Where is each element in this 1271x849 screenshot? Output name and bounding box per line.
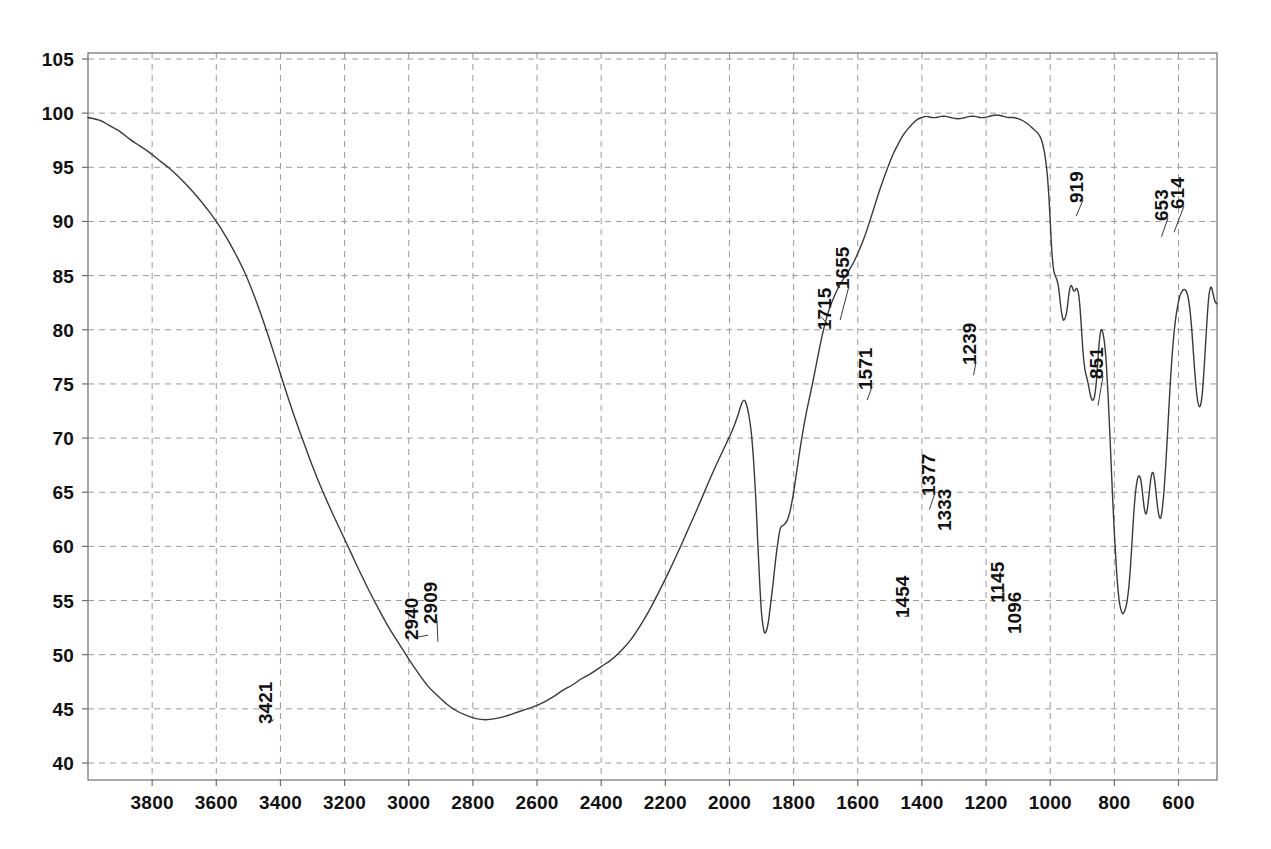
peak-label: 614 (1167, 177, 1188, 209)
y-tick-label: 85 (52, 266, 74, 287)
y-tick-label: 55 (52, 591, 74, 612)
x-tick-label: 2000 (708, 792, 751, 813)
peak-label: 1454 (892, 575, 913, 618)
peak-label: 851 (1086, 347, 1107, 379)
x-tick-label: 800 (1098, 792, 1130, 813)
y-tick-label: 70 (52, 428, 74, 449)
x-tick-label: 2200 (644, 792, 687, 813)
y-tick-label: 100 (42, 103, 74, 124)
x-tick-label: 3200 (323, 792, 366, 813)
peak-annotation-labels: 3421294029091715165515711454137713331239… (255, 171, 1188, 724)
x-tick-label: 3800 (131, 792, 174, 813)
x-tick-label: 1800 (772, 792, 815, 813)
peak-label: 1715 (814, 287, 835, 330)
y-tick-label: 45 (52, 699, 74, 720)
peak-label: 919 (1066, 171, 1087, 203)
x-tick-label: 2800 (451, 792, 494, 813)
ftir-spectrum-figure: 3800360034003200300028002600240022002000… (0, 0, 1271, 849)
x-tick-label: 2600 (515, 792, 558, 813)
x-tick-label: 600 (1162, 792, 1194, 813)
peak-label: 2909 (420, 582, 441, 624)
peak-label: 1655 (832, 246, 853, 289)
x-axis-tick-labels: 3800360034003200300028002600240022002000… (131, 792, 1195, 813)
y-tick-label: 90 (52, 211, 74, 232)
axis-tick-marks (82, 59, 1179, 786)
peak-leader-line (840, 286, 849, 320)
x-tick-label: 2400 (580, 792, 623, 813)
peak-label: 2940 (401, 598, 422, 640)
y-tick-label: 75 (52, 374, 74, 395)
y-tick-label: 50 (52, 645, 74, 666)
x-tick-label: 1600 (836, 792, 879, 813)
y-tick-label: 60 (52, 536, 74, 557)
grid-lines (88, 53, 1217, 780)
peak-label: 3421 (255, 681, 276, 724)
peak-leader-line (1098, 376, 1103, 406)
x-tick-label: 3600 (195, 792, 238, 813)
x-tick-label: 1000 (1029, 792, 1072, 813)
peak-label: 1571 (855, 347, 876, 390)
x-tick-label: 3400 (259, 792, 302, 813)
axes-border (88, 53, 1217, 780)
x-tick-label: 1200 (965, 792, 1008, 813)
plot-frame (88, 53, 1217, 780)
spectrum-svg: 3800360034003200300028002600240022002000… (0, 0, 1271, 849)
peak-label: 1239 (959, 323, 980, 365)
y-tick-label: 40 (52, 753, 74, 774)
y-tick-label: 65 (52, 482, 74, 503)
y-tick-label: 105 (42, 49, 75, 70)
y-tick-label: 95 (52, 157, 74, 178)
x-tick-label: 1400 (900, 792, 943, 813)
x-tick-label: 3000 (387, 792, 430, 813)
peak-label: 1096 (1004, 592, 1025, 634)
y-axis-tick-labels: 404550556065707580859095100105 (42, 49, 75, 774)
spectrum-curve (88, 115, 1217, 719)
y-tick-label: 80 (52, 320, 74, 341)
